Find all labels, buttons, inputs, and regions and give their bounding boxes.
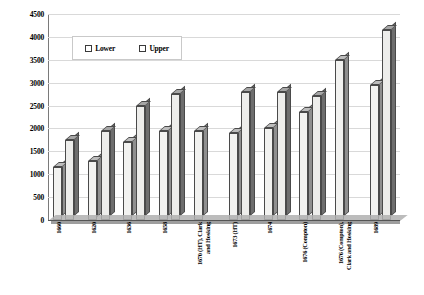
bar-side <box>321 88 326 216</box>
bar-side <box>250 84 255 216</box>
bar-lower <box>299 112 308 220</box>
y-tick-label: 2000 <box>30 124 44 133</box>
bar-front <box>123 142 132 220</box>
y-tick-label: 4500 <box>30 10 44 19</box>
legend-swatch-upper <box>139 45 146 52</box>
bar-upper <box>241 92 250 220</box>
bar-upper <box>171 94 180 220</box>
x-tick-label: 1660 <box>55 222 63 295</box>
bar-upper <box>136 106 145 220</box>
bar-side <box>344 52 349 216</box>
y-tick-label: 2500 <box>30 101 44 110</box>
bar-front <box>88 161 97 221</box>
chart-container: 050010001500200025003000350040004500 Low… <box>0 0 424 295</box>
bar-group <box>259 14 294 220</box>
bar-front <box>335 60 344 220</box>
chart-legend: Lower Upper <box>72 36 182 60</box>
y-tick-label: 0 <box>40 216 44 225</box>
bar-front <box>171 94 180 220</box>
bar-front <box>299 112 308 220</box>
bar-side <box>391 22 396 216</box>
legend-item-upper: Upper <box>139 44 168 53</box>
legend-item-lower: Lower <box>85 44 115 53</box>
bar-upper <box>65 140 74 220</box>
x-tick-label: 1674 <box>266 222 274 295</box>
bar-group <box>330 14 365 220</box>
bar-front <box>194 131 203 220</box>
bar-front <box>264 128 273 220</box>
bar-side <box>180 86 185 216</box>
bar-group <box>189 14 224 220</box>
y-tick-label: 4000 <box>30 32 44 41</box>
legend-label-upper: Upper <box>149 44 168 53</box>
y-axis-tick-labels: 050010001500200025003000350040004500 <box>0 14 44 221</box>
y-tick-label: 3000 <box>30 78 44 87</box>
legend-label-lower: Lower <box>95 44 115 53</box>
bar-group <box>294 14 329 220</box>
bar-side <box>145 97 150 216</box>
bar-lower <box>88 161 97 221</box>
x-tick-label: 1636 <box>125 222 133 295</box>
bar-front <box>53 167 62 220</box>
bar-upper <box>382 30 391 220</box>
bar-front <box>382 30 391 220</box>
x-tick-label: 1620 <box>90 222 98 295</box>
y-tick-label: 1500 <box>30 147 44 156</box>
bar-lower <box>194 131 203 220</box>
bar-front <box>159 131 168 220</box>
x-tick-label: 1658 <box>161 222 169 295</box>
bar-front <box>370 85 379 220</box>
x-axis-line <box>48 220 400 221</box>
bar-group <box>224 14 259 220</box>
bar-front <box>277 92 286 220</box>
x-tick-label: 1670 (HT), Clark and Hosking <box>196 222 212 295</box>
x-tick-label: 1673 (HT) <box>231 222 239 295</box>
x-tick-label: 1689 <box>372 222 380 295</box>
legend-swatch-lower <box>85 45 92 52</box>
bar-lower <box>229 133 238 220</box>
bar-side <box>74 132 79 216</box>
bar-side <box>203 123 208 216</box>
y-tick-label: 1000 <box>30 170 44 179</box>
bar-front <box>101 131 110 220</box>
bar-front <box>229 133 238 220</box>
bar-lower <box>370 85 379 220</box>
x-tick-label: 1676 (Compton), Clark and Hosking <box>337 222 353 295</box>
bar-lower <box>53 167 62 220</box>
y-tick-label: 500 <box>33 193 44 202</box>
bar-upper <box>277 92 286 220</box>
x-tick-label: 1676 (Compton) <box>301 222 309 295</box>
bar-front <box>136 106 145 220</box>
bar-group <box>365 14 400 220</box>
bar-front <box>312 96 321 220</box>
bar-lower <box>123 142 132 220</box>
bar-upper <box>312 96 321 220</box>
bar-lower <box>335 60 344 220</box>
bar-side <box>286 84 291 216</box>
bar-lower <box>264 128 273 220</box>
bar-lower <box>159 131 168 220</box>
y-tick-label: 3500 <box>30 55 44 64</box>
bar-upper <box>101 131 110 220</box>
bar-side <box>110 123 115 216</box>
x-axis-tick-labels: 16601620163616581670 (HT), Clark and Hos… <box>48 222 400 295</box>
